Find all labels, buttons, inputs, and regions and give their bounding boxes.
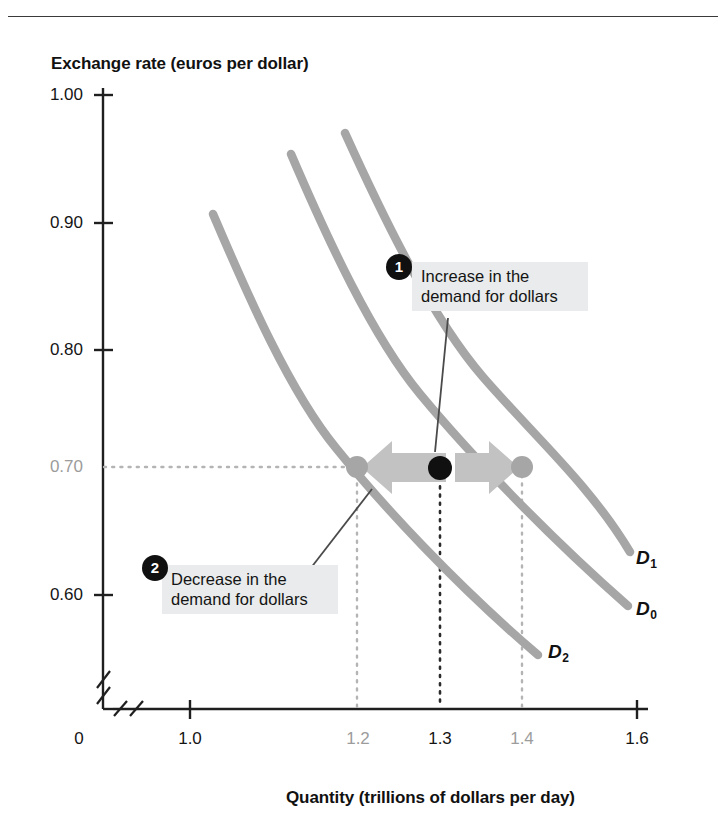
- equilibrium-point-1.2: [346, 456, 368, 478]
- annotation-callout-2: Decrease in the demand for dollars: [162, 565, 338, 614]
- annotation-callout-1: Increase in the demand for dollars: [412, 262, 588, 311]
- equilibrium-point-1.4: [511, 456, 533, 478]
- annotation-badge-2: 2: [142, 555, 168, 581]
- annotation-badge-1: 1: [386, 254, 412, 280]
- leader-line-annotation-1: [435, 318, 448, 452]
- leader-line-annotation-2: [307, 489, 372, 573]
- equilibrium-point-1.3: [428, 456, 452, 480]
- exchange-rate-demand-figure: Exchange rate (euros per dollar) Quantit…: [0, 0, 726, 831]
- demand-curve-d0: [291, 154, 628, 606]
- plot-canvas: [0, 0, 726, 831]
